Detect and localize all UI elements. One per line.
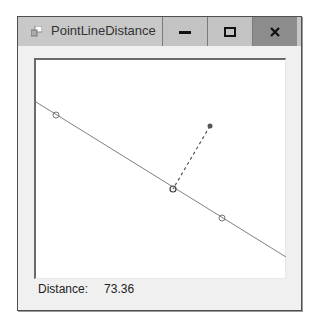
close-button[interactable] xyxy=(252,17,297,46)
app-window: PointLineDistance Distance:73.36 xyxy=(17,16,302,311)
minimize-icon xyxy=(179,29,191,35)
minimize-button[interactable] xyxy=(162,17,207,46)
window-title: PointLineDistance xyxy=(51,23,156,38)
status-bar: Distance:73.36 xyxy=(38,282,134,296)
close-icon xyxy=(270,27,280,37)
reference-line xyxy=(36,102,286,257)
distance-label: Distance: xyxy=(38,282,88,296)
line-point-handle[interactable] xyxy=(53,112,59,118)
title-bar[interactable]: PointLineDistance xyxy=(18,17,301,46)
test-point-handle[interactable] xyxy=(208,124,213,129)
app-window-icon xyxy=(31,26,42,37)
maximize-button[interactable] xyxy=(207,17,252,46)
line-point-handle[interactable] xyxy=(219,215,225,221)
distance-value: 73.36 xyxy=(104,282,134,296)
plot-area[interactable] xyxy=(36,60,286,279)
maximize-icon xyxy=(224,27,236,37)
distance-segment xyxy=(173,126,210,189)
drawing-canvas[interactable] xyxy=(34,58,286,279)
